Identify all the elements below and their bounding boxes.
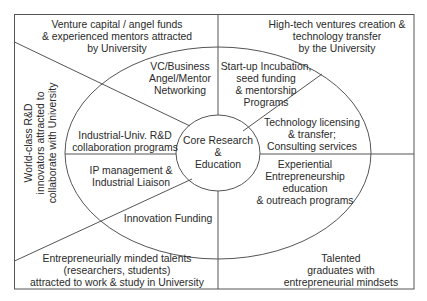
outer-region-hightech-ventures: High-tech ventures creation & technology… <box>262 19 412 55</box>
center-core-research-label: Core Research & Education <box>178 135 258 171</box>
segment-ip-management: IP management & Industrial Liaison <box>76 165 186 189</box>
segment-tech-licensing: Technology licensing & transfer; Consult… <box>262 117 362 153</box>
segment-experiential-education: Experiential Entrepreneurship education … <box>250 159 360 207</box>
segment-startup-incubation: Start-up Incubation, seed funding & ment… <box>216 61 316 109</box>
segment-innovation-funding: Innovation Funding <box>120 213 216 225</box>
segment-industrial-collab: Industrial-Univ. R&D collaboration progr… <box>70 130 180 154</box>
segment-vc-networking: VC/Business Angel/Mentor Networking <box>140 61 220 97</box>
outer-region-venture-capital: Venture capital / angel funds & experien… <box>22 19 212 55</box>
outer-region-entrepreneurial-talents: Entrepreneurially minded talents (resear… <box>22 253 212 289</box>
outer-region-talented-graduates: Talented graduates with entrepreneurial … <box>276 253 406 289</box>
outer-region-world-class-rd: World-class R&D innovators attracted to … <box>23 53 61 233</box>
